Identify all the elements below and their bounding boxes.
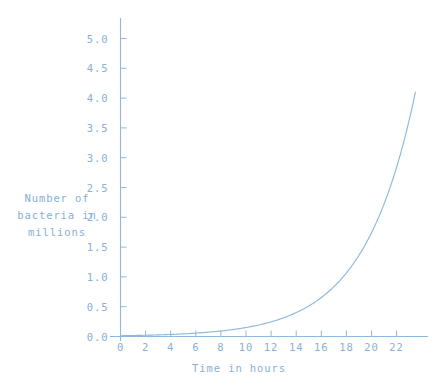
x-tick-label: 20 <box>364 341 378 353</box>
y-tick-label: 3.5 <box>87 122 109 134</box>
y-axis-title: Number of bacteria in millions <box>17 192 96 238</box>
y-axis-title-line-1: Number of <box>25 192 90 204</box>
y-axis-ticks <box>121 39 127 337</box>
exponential-growth-curve <box>121 92 416 336</box>
chart-figure: 0.00.51.01.52.02.53.03.54.04.55.0 024681… <box>0 0 447 387</box>
y-axis-tick-labels: 0.00.51.01.52.02.53.03.54.04.55.0 <box>87 33 109 343</box>
y-tick-label: 5.0 <box>87 33 109 45</box>
x-tick-label: 6 <box>192 341 199 353</box>
data-series-group <box>121 92 416 336</box>
x-axis-title: Time in hours <box>192 362 286 374</box>
x-axis: 0246810121416182022 <box>110 331 428 353</box>
y-tick-label: 4.0 <box>87 92 109 104</box>
y-tick-label: 0.0 <box>87 331 109 343</box>
x-tick-label: 18 <box>339 341 353 353</box>
x-tick-label: 2 <box>142 341 149 353</box>
y-tick-label: 1.5 <box>87 241 109 253</box>
y-tick-label: 0.5 <box>87 301 109 313</box>
x-tick-label: 14 <box>289 341 303 353</box>
y-axis-title-line-3: millions <box>28 226 86 238</box>
chart-canvas: 0.00.51.01.52.02.53.03.54.04.55.0 024681… <box>0 0 447 387</box>
y-axis-title-line-2: bacteria in <box>17 209 96 221</box>
y-tick-label: 1.0 <box>87 271 109 283</box>
x-tick-label: 4 <box>167 341 174 353</box>
y-tick-label: 2.5 <box>87 182 109 194</box>
x-tick-label: 22 <box>389 341 403 353</box>
x-tick-label: 8 <box>217 341 224 353</box>
x-tick-label: 16 <box>314 341 328 353</box>
x-tick-label: 10 <box>239 341 253 353</box>
x-axis-ticks <box>121 331 397 337</box>
x-tick-label: 12 <box>264 341 278 353</box>
y-tick-label: 4.5 <box>87 62 109 74</box>
x-axis-tick-labels: 0246810121416182022 <box>117 341 404 353</box>
x-tick-label: 0 <box>117 341 124 353</box>
y-axis: 0.00.51.01.52.02.53.03.54.04.55.0 <box>87 18 127 343</box>
y-tick-label: 3.0 <box>87 152 109 164</box>
